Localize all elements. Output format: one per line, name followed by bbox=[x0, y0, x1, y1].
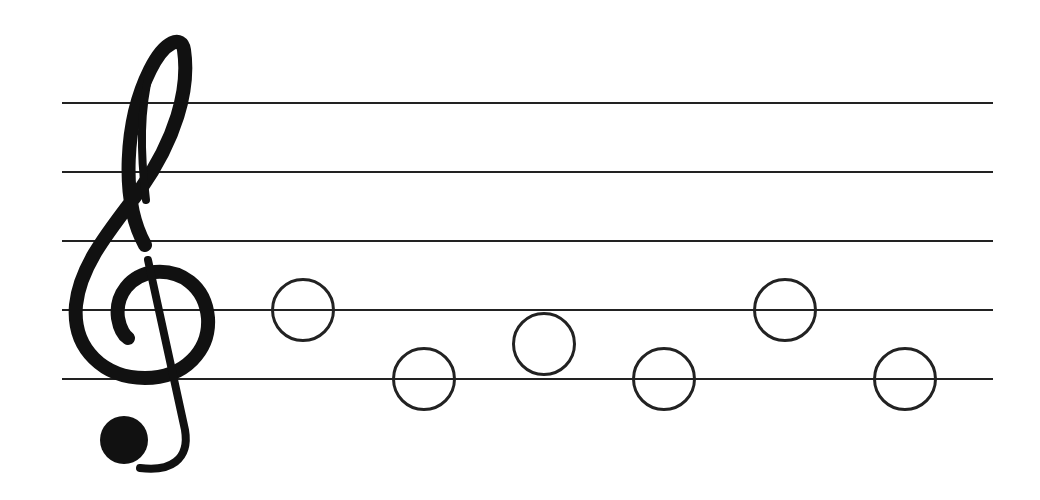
whole-note-e4 bbox=[392, 347, 456, 411]
treble-clef-icon bbox=[0, 0, 1040, 500]
whole-note-e4 bbox=[632, 347, 696, 411]
whole-note-g4 bbox=[271, 278, 335, 342]
music-staff-diagram bbox=[0, 0, 1040, 500]
whole-note-f4 bbox=[512, 312, 576, 376]
whole-note-g4 bbox=[753, 278, 817, 342]
whole-note-e4 bbox=[873, 347, 937, 411]
